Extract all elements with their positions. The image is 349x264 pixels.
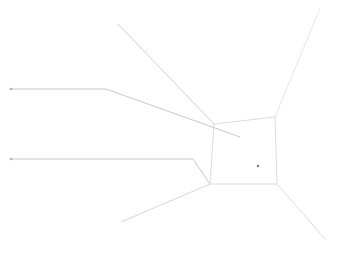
upper-leader-dot — [10, 88, 13, 91]
ray-bottom-right — [277, 184, 326, 240]
upper-leader — [11, 89, 240, 137]
diagram-canvas — [0, 0, 349, 264]
ray-bottom-left — [121, 184, 210, 222]
ray-top-right — [275, 8, 320, 117]
perspective-rays — [118, 8, 326, 240]
leader-lines — [11, 89, 240, 184]
center-dot — [257, 165, 259, 167]
lower-leader-dot — [10, 158, 13, 161]
center-box — [210, 117, 277, 184]
perspective-sketch — [0, 0, 349, 264]
lower-leader — [11, 159, 210, 184]
center-box — [210, 117, 277, 184]
ray-top-left — [118, 24, 214, 124]
